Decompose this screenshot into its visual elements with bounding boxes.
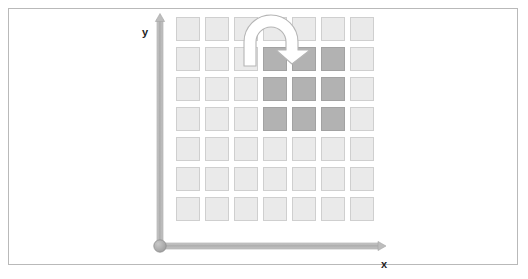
grid-cell-r6-c3 [234, 167, 258, 191]
grid-cell-r5-c4 [263, 137, 287, 161]
grid-cell-r6-c5 [292, 167, 316, 191]
x-axis-label: x [381, 258, 387, 270]
grid-cell-r1-c2 [205, 17, 229, 41]
y-axis-label: y [142, 26, 148, 38]
grid-cell-r4-c2 [205, 107, 229, 131]
grid-cell-r6-c4 [263, 167, 287, 191]
grid-cell-r1-c6 [321, 17, 345, 41]
grid-cell-r4-c3 [234, 107, 258, 131]
grid-cell-r1-c7 [350, 17, 374, 41]
grid-cell-r4-c7 [350, 107, 374, 131]
grid-cell-r6-c1 [176, 167, 200, 191]
grid-cell-r7-c6 [321, 197, 345, 221]
grid-cell-r4-c4 [263, 107, 287, 131]
grid-cell-r6-c6 [321, 167, 345, 191]
grid-cell-r4-c1 [176, 107, 200, 131]
grid-cell-r2-c6 [321, 47, 345, 71]
grid-cell-r7-c2 [205, 197, 229, 221]
diagram-canvas: y x [0, 0, 528, 279]
grid-cell-r3-c5 [292, 77, 316, 101]
grid-cell-r5-c2 [205, 137, 229, 161]
grid-cell-r5-c1 [176, 137, 200, 161]
grid-cell-r7-c5 [292, 197, 316, 221]
grid-cell-r2-c1 [176, 47, 200, 71]
grid-cell-r7-c4 [263, 197, 287, 221]
grid-cell-r6-c7 [350, 167, 374, 191]
grid-cell-r4-c5 [292, 107, 316, 131]
grid-cell-r7-c3 [234, 197, 258, 221]
grid-cell-r5-c3 [234, 137, 258, 161]
grid-cell-r7-c7 [350, 197, 374, 221]
grid-cell-r3-c2 [205, 77, 229, 101]
grid-cell-r3-c4 [263, 77, 287, 101]
grid-cell-r2-c2 [205, 47, 229, 71]
rotation-arrow-icon [230, 12, 322, 68]
grid-cell-r5-c6 [321, 137, 345, 161]
grid-cell-r5-c5 [292, 137, 316, 161]
grid-cell-r3-c1 [176, 77, 200, 101]
grid-cell-r3-c3 [234, 77, 258, 101]
rotation-arrow-shape [244, 15, 310, 66]
grid-cell-r3-c7 [350, 77, 374, 101]
grid-cell-r5-c7 [350, 137, 374, 161]
grid-cell-r2-c7 [350, 47, 374, 71]
grid-cell-r6-c2 [205, 167, 229, 191]
grid-cell-r1-c1 [176, 17, 200, 41]
grid-cell-r4-c6 [321, 107, 345, 131]
grid-cell-r3-c6 [321, 77, 345, 101]
grid-cell-r7-c1 [176, 197, 200, 221]
